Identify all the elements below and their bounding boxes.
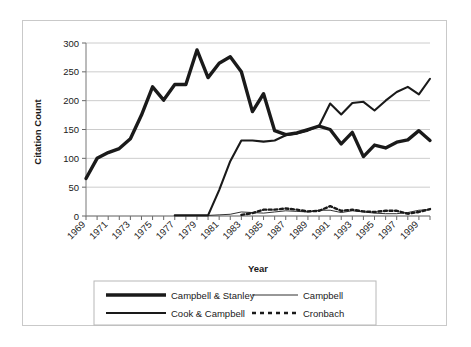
- x-tick-label: 1993: [331, 219, 354, 242]
- x-axis-tick-labels: 1969197119731975197719791981198319851987…: [65, 219, 421, 242]
- legend-label: Cook & Campbell: [171, 308, 245, 319]
- x-tick-label: 1971: [87, 219, 110, 242]
- series-line-campbell-stanley: [86, 50, 430, 179]
- data-series: [86, 50, 430, 216]
- x-tick-label: 1987: [264, 219, 287, 242]
- x-tick-label: 1983: [220, 219, 243, 242]
- y-axis-title: Citation Count: [32, 98, 43, 164]
- y-tick-label: 150: [63, 124, 79, 135]
- y-tick-label: 50: [68, 182, 79, 193]
- x-tick-label: 1989: [287, 219, 310, 242]
- y-tick-label: 100: [63, 153, 79, 164]
- x-tick-label: 1973: [109, 219, 132, 242]
- x-tick-label: 1981: [198, 219, 221, 242]
- x-axis-ticks: [86, 216, 430, 220]
- x-tick-label: 1995: [353, 219, 376, 242]
- figure-container: 050100150200250300 196919711973197519771…: [0, 0, 471, 347]
- legend-label: Campbell & Stanley: [171, 290, 255, 301]
- y-axis-ticks: [82, 43, 86, 216]
- y-axis-tick-labels: 050100150200250300: [63, 38, 79, 222]
- x-tick-label: 1997: [375, 219, 398, 242]
- x-tick-label: 1985: [242, 219, 265, 242]
- y-tick-label: 200: [63, 95, 79, 106]
- legend-label: Campbell: [303, 290, 343, 301]
- x-axis-title: Year: [248, 263, 268, 274]
- x-tick-label: 1979: [176, 219, 199, 242]
- citation-count-line-chart: 050100150200250300 196919711973197519771…: [0, 0, 471, 347]
- legend: Campbell & StanleyCampbellCook & Campbel…: [94, 281, 376, 325]
- x-tick-label: 1991: [309, 219, 332, 242]
- legend-label: Cronbach: [303, 308, 344, 319]
- x-tick-label: 1999: [398, 219, 421, 242]
- gridlines: [86, 43, 430, 216]
- x-tick-label: 1975: [131, 219, 154, 242]
- series-line-cook-campbell: [175, 79, 430, 216]
- x-tick-label: 1977: [153, 219, 176, 242]
- y-tick-label: 300: [63, 38, 79, 49]
- x-tick-label: 1969: [65, 219, 88, 242]
- y-tick-label: 250: [63, 66, 79, 77]
